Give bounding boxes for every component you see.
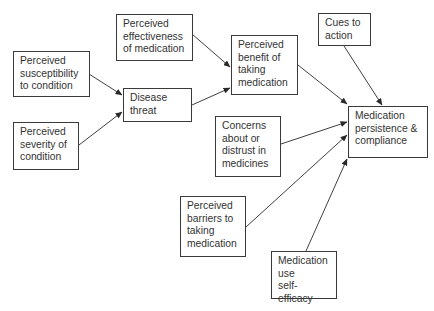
node-concerns-distrust: Concerns about or distrust in medicines xyxy=(215,116,281,177)
health-belief-model-diagram: Perceived effectiveness of medication Pe… xyxy=(0,0,434,311)
arrow-concerns-to-compliance xyxy=(281,122,347,144)
arrow-self_efficacy-to-compliance xyxy=(306,159,347,251)
node-perceived-benefit: Perceived benefit of taking medication xyxy=(231,35,298,95)
arrow-effectiveness-to-benefit xyxy=(192,34,230,67)
arrow-severity-to-disease_threat xyxy=(79,112,122,145)
arrow-susceptibility-to-disease_threat xyxy=(89,74,122,95)
arrow-cues-to-compliance xyxy=(344,46,382,105)
node-perceived-severity: Perceived severity of condition xyxy=(13,122,79,170)
arrow-benefit-to-compliance xyxy=(298,65,347,104)
node-cues-to-action: Cues to action xyxy=(318,13,371,46)
node-self-efficacy: Medication use self-efficacy xyxy=(271,251,337,299)
node-perceived-barriers: Perceived barriers to taking medication xyxy=(180,196,246,257)
node-perceived-susceptibility: Perceived susceptibility to condition xyxy=(13,51,90,97)
node-disease-threat: Disease threat xyxy=(123,88,192,122)
node-medication-compliance: Medication persistence & compliance xyxy=(348,106,428,158)
node-perceived-effectiveness: Perceived effectiveness of medication xyxy=(116,14,193,61)
arrow-disease_threat-to-benefit xyxy=(192,88,230,105)
